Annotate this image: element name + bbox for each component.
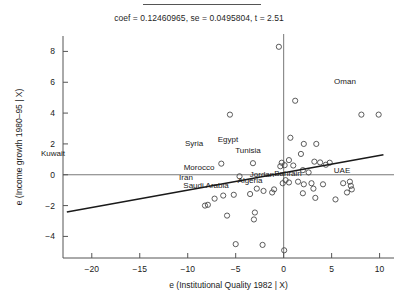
data-point — [260, 242, 265, 247]
data-point — [233, 242, 238, 247]
data-point — [293, 98, 298, 103]
data-point — [306, 170, 311, 175]
data-points-layer — [202, 44, 381, 253]
data-point — [376, 112, 381, 117]
data-point — [227, 112, 232, 117]
data-point — [261, 188, 266, 193]
data-point — [286, 158, 291, 163]
data-point — [309, 181, 314, 186]
country-label: Morocco — [184, 163, 215, 172]
scatter-plot-figure: coef = 0.12460965, se = 0.0495804, t = 2… — [0, 0, 398, 297]
country-label: UAE — [334, 166, 350, 175]
y-tick-label: 4 — [50, 108, 55, 118]
data-point — [219, 161, 224, 166]
data-point — [251, 217, 256, 222]
data-point — [221, 193, 226, 198]
data-point — [359, 112, 364, 117]
x-tick-label: −10 — [181, 264, 196, 274]
data-point — [282, 248, 287, 253]
data-point — [318, 160, 323, 165]
y-axis-title: e (Income growth 1980–95 | X) — [14, 89, 24, 206]
y-tick-label: −4 — [45, 231, 55, 241]
x-tick-label: 5 — [329, 264, 334, 274]
data-point — [250, 161, 255, 166]
data-point — [252, 210, 257, 215]
data-point — [212, 196, 217, 201]
x-tick-label: −15 — [133, 264, 148, 274]
x-tick-label: 0 — [281, 264, 286, 274]
fraction-bar-rule — [143, 4, 261, 5]
data-point — [333, 197, 338, 202]
data-point — [341, 181, 346, 186]
country-label: Saudi Arabia — [183, 181, 229, 190]
axes-layer: −4−202468−20−15−10−50510 — [45, 36, 394, 274]
data-point — [349, 187, 354, 192]
data-point — [295, 179, 300, 184]
data-point — [311, 186, 316, 191]
data-point — [280, 181, 285, 186]
data-point — [291, 163, 296, 168]
data-point — [301, 141, 306, 146]
data-point — [276, 44, 281, 49]
y-tick-label: 6 — [50, 77, 55, 87]
data-point — [344, 190, 349, 195]
country-label: Tunisia — [235, 146, 261, 155]
data-point — [254, 186, 259, 191]
data-point — [301, 182, 306, 187]
data-point — [247, 191, 252, 196]
country-labels-layer: KuwaitOmanSyriaEgyptTunisiaMoroccoIranSa… — [41, 77, 356, 190]
y-tick-label: 0 — [50, 170, 55, 180]
country-label: Jordan — [250, 170, 274, 179]
country-label: Bahrain — [274, 169, 302, 178]
y-tick-label: −2 — [45, 201, 55, 211]
data-point — [288, 135, 293, 140]
chart-subtitle: coef = 0.12460965, se = 0.0495804, t = 2… — [0, 13, 398, 23]
country-label: Egypt — [218, 135, 239, 144]
data-point — [231, 192, 236, 197]
data-point — [312, 159, 317, 164]
x-tick-label: −20 — [85, 264, 100, 274]
x-tick-label: 10 — [375, 264, 385, 274]
axis-titles-layer: e (Institutional Quality 1982 | X)e (Inc… — [14, 89, 288, 290]
country-label: Syria — [185, 139, 204, 148]
x-tick-label: −5 — [231, 264, 241, 274]
y-tick-label: 8 — [50, 46, 55, 56]
country-label: Oman — [334, 77, 356, 86]
plot-canvas: −4−202468−20−15−10−50510 KuwaitOmanSyria… — [0, 0, 398, 297]
data-point — [313, 195, 318, 200]
x-axis-title: e (Institutional Quality 1982 | X) — [169, 280, 288, 290]
y-tick-label: 2 — [50, 139, 55, 149]
data-point — [320, 182, 325, 187]
country-label: Kuwait — [41, 149, 66, 158]
data-point — [300, 191, 305, 196]
reference-lines-layer — [63, 34, 394, 258]
data-point — [314, 141, 319, 146]
data-point — [224, 213, 229, 218]
data-point — [298, 151, 303, 156]
